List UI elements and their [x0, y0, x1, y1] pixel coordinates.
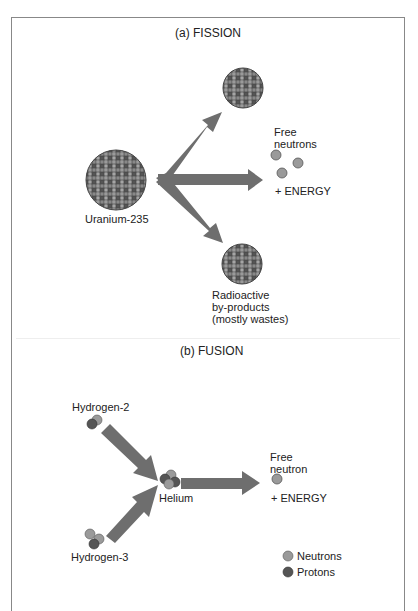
uranium-label: Uranium-235: [85, 213, 149, 225]
byproducts-label-1: Radioactive: [212, 289, 269, 301]
fission-arrows: [156, 112, 263, 243]
free-neutrons-label-1: Free: [274, 126, 297, 138]
byproducts-label-2: by-products: [212, 301, 269, 313]
byproducts-label-3: (mostly wastes): [212, 313, 288, 325]
byproduct-nucleus-bottom: [222, 244, 262, 284]
legend-protons: Protons: [297, 566, 335, 578]
free-neutron-label-2: neutron: [270, 463, 307, 475]
fission-title: (a) FISSION: [175, 26, 241, 40]
fusion-energy-label: + ENERGY: [271, 492, 327, 504]
free-neutron-label-1: Free: [270, 451, 293, 463]
byproduct-nucleus-top: [223, 68, 263, 108]
helium-label: Helium: [159, 492, 193, 504]
hydrogen3-label: Hydrogen-3: [71, 551, 128, 563]
fission-energy-label: + ENERGY: [275, 185, 331, 197]
uranium-nucleus: [86, 150, 146, 210]
hydrogen2-label: Hydrogen-2: [72, 401, 129, 413]
fusion-arrows: [101, 424, 260, 543]
fusion-title: (b) FUSION: [180, 344, 243, 358]
legend-neutrons: Neutrons: [297, 550, 342, 562]
free-neutrons-label-2: neutrons: [274, 138, 317, 150]
